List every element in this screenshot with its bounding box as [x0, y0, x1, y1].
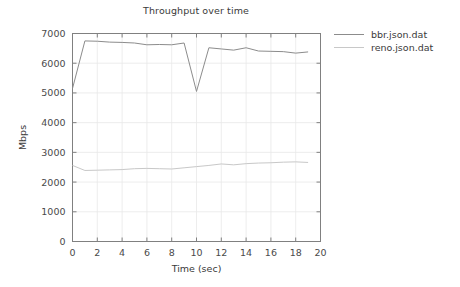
y-tick-label: 2000 [41, 177, 65, 188]
data-series [73, 41, 309, 171]
y-tick-label: 4000 [41, 117, 65, 128]
chart-screenshot: Throughput over time 0100020003000400050… [0, 0, 460, 287]
chart-legend: bbr.json.dat reno.json.dat [334, 28, 458, 54]
y-axis-ticks: 01000200030004000500060007000 [41, 28, 320, 247]
x-axis-ticks: 02468101214161820 [69, 34, 326, 258]
x-tick-label: 20 [314, 247, 326, 258]
legend-line-swatch-reno [334, 47, 364, 48]
x-tick-label: 18 [290, 247, 302, 258]
x-tick-label: 2 [94, 247, 100, 258]
y-tick-label: 6000 [41, 58, 65, 69]
grid-lines [73, 34, 321, 242]
x-tick-label: 12 [215, 247, 227, 258]
legend-label-bbr: bbr.json.dat [371, 28, 427, 41]
y-tick-label: 5000 [41, 87, 65, 98]
x-tick-label: 4 [119, 247, 125, 258]
x-tick-label: 6 [144, 247, 150, 258]
x-tick-label: 10 [190, 247, 202, 258]
legend-label-reno: reno.json.dat [371, 41, 433, 54]
legend-line-swatch-bbr [334, 34, 364, 35]
x-tick-label: 14 [240, 247, 252, 258]
legend-item-bbr: bbr.json.dat [334, 28, 458, 41]
series-line-reno [73, 162, 309, 171]
x-tick-label: 8 [169, 247, 175, 258]
y-tick-label: 3000 [41, 147, 65, 158]
y-tick-label: 1000 [41, 206, 65, 217]
y-tick-label: 0 [59, 236, 65, 247]
y-tick-label: 7000 [41, 28, 65, 39]
legend-item-reno: reno.json.dat [334, 41, 458, 54]
y-axis-title: Mbps [17, 125, 28, 150]
x-axis-title: Time (sec) [171, 263, 222, 274]
x-tick-label: 0 [69, 247, 75, 258]
x-tick-label: 16 [265, 247, 277, 258]
series-line-bbr [73, 41, 309, 92]
